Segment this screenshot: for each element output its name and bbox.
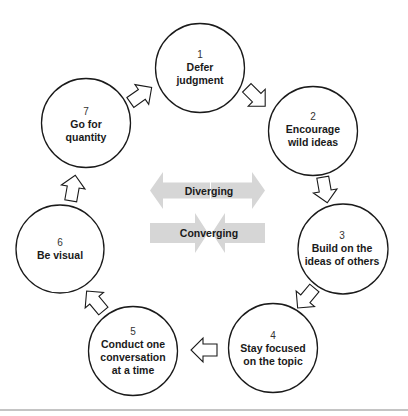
step-label-line: Go for bbox=[70, 118, 102, 130]
step-label-line: on the topic bbox=[243, 355, 303, 367]
step-label-line: at a time bbox=[112, 364, 155, 376]
step-label-line: wild ideas bbox=[287, 136, 338, 148]
step-label-line: judgment bbox=[175, 74, 224, 86]
diverging-arrows: Diverging bbox=[150, 172, 265, 209]
flow-arrow-1-to-2 bbox=[238, 79, 273, 114]
brainstorming-cycle-diagram: Diverging Converging 1 Defer judgment bbox=[0, 0, 408, 416]
step-number: 2 bbox=[310, 111, 316, 122]
flow-arrow-7-to-1 bbox=[123, 78, 158, 113]
flow-arrow-5-to-6 bbox=[77, 283, 112, 318]
step-label-line: Be visual bbox=[37, 249, 83, 261]
step-number: 1 bbox=[197, 49, 203, 60]
step-1: 1 Defer judgment bbox=[156, 24, 245, 113]
arrow-right-icon bbox=[238, 79, 273, 114]
flow-arrow-6-to-7 bbox=[59, 173, 87, 203]
arrow-up-icon bbox=[59, 173, 87, 203]
step-label-line: Encourage bbox=[286, 123, 340, 135]
converging-label: Converging bbox=[180, 227, 238, 239]
step-5: 5 Conduct one conversation at a time bbox=[89, 307, 178, 396]
step-label-line: Stay focused bbox=[240, 342, 305, 354]
step-number: 3 bbox=[339, 230, 345, 241]
step-6: 6 Be visual bbox=[16, 205, 104, 293]
flow-arrow-2-to-3 bbox=[311, 175, 339, 205]
step-number: 5 bbox=[130, 326, 136, 337]
step-3: 3 Build on the ideas of others bbox=[298, 204, 388, 294]
step-number: 6 bbox=[57, 237, 63, 248]
arrow-down-icon bbox=[311, 175, 339, 205]
step-2: 2 Encourage wild ideas bbox=[269, 87, 358, 176]
converging-arrows: Converging bbox=[150, 213, 265, 253]
step-4: 4 Stay focused on the topic bbox=[229, 304, 318, 393]
arrow-up-left-icon bbox=[77, 283, 112, 318]
step-label-line: Defer bbox=[187, 61, 214, 73]
step-label-line: conversation bbox=[100, 351, 165, 363]
diverging-label: Diverging bbox=[185, 185, 233, 197]
step-label-line: Build on the bbox=[312, 242, 373, 254]
step-label-line: quantity bbox=[66, 131, 107, 143]
step-label-line: Conduct one bbox=[101, 338, 165, 350]
step-label-line: ideas of others bbox=[305, 255, 380, 267]
flow-arrow-4-to-5 bbox=[191, 338, 217, 362]
arrow-left-icon bbox=[191, 338, 217, 362]
step-number: 7 bbox=[83, 106, 89, 117]
step-number: 4 bbox=[270, 330, 276, 341]
step-7: 7 Go for quantity bbox=[42, 79, 131, 168]
arrow-up-right-icon bbox=[123, 78, 158, 113]
